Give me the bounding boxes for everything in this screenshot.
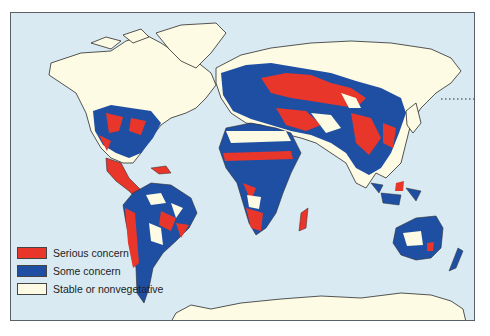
legend-item-stable: Stable or nonvegetative [17,280,163,298]
legend-item-serious: Serious concern [17,244,163,262]
legend-label: Serious concern [53,247,129,259]
north-america [49,23,226,163]
africa [219,123,308,235]
legend-label: Some concern [53,265,121,277]
australia [393,216,463,271]
legend-label: Stable or nonvegetative [53,283,163,295]
legend-item-some: Some concern [17,262,163,280]
map-frame: Serious concern Some concern Stable or n… [10,12,475,321]
legend: Serious concern Some concern Stable or n… [17,244,163,298]
serious-swatch [17,247,47,259]
stable-swatch [17,283,47,295]
some-swatch [17,265,47,277]
antarctica [171,293,466,321]
